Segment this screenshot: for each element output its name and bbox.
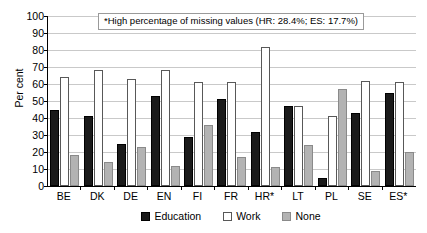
bar-none [204, 125, 213, 186]
bar-work [60, 77, 69, 186]
bar-work [395, 82, 404, 186]
x-tick-label: ES* [382, 190, 415, 202]
bar-none [405, 152, 414, 186]
bar-education [318, 178, 327, 187]
bar-work [227, 82, 236, 186]
bar-work [194, 82, 203, 186]
bar-none [271, 167, 280, 186]
bar-group [249, 16, 282, 186]
bar-work [261, 47, 270, 186]
y-tick-label: 60 [4, 79, 44, 90]
chart-annotation: *High percentage of missing values (HR: … [98, 13, 364, 30]
bar-group [215, 16, 248, 186]
bar-group [148, 16, 181, 186]
x-tick-label: FR [214, 190, 247, 202]
x-tick-mark [80, 186, 81, 190]
legend-item-work: Work [223, 210, 260, 222]
x-tick-label: SE [348, 190, 381, 202]
y-tick-label: 20 [4, 147, 44, 158]
x-tick-label: FI [181, 190, 214, 202]
bar-education [251, 132, 260, 186]
x-tick-mark [181, 186, 182, 190]
bar-group [316, 16, 349, 186]
x-tick-mark [315, 186, 316, 190]
y-tick-label: 90 [4, 28, 44, 39]
x-tick-label: DK [80, 190, 113, 202]
bar-work [294, 106, 303, 186]
y-tick-label: 40 [4, 113, 44, 124]
bar-none [104, 162, 113, 186]
bar-work [94, 70, 103, 186]
x-tick-label: LT [281, 190, 314, 202]
bar-chart: Per cent 0102030405060708090100 *High pe… [0, 0, 427, 233]
legend-label: Education [154, 210, 201, 222]
x-tick-mark [147, 186, 148, 190]
legend-item-none: None [282, 210, 320, 222]
x-tick-mark [248, 186, 249, 190]
bar-education [117, 144, 126, 187]
bar-education [151, 96, 160, 186]
bar-groups [48, 16, 416, 186]
bar-none [338, 89, 347, 186]
y-tick-label: 0 [4, 181, 44, 192]
bar-education [50, 110, 59, 187]
bar-work [127, 79, 136, 186]
bar-education [84, 116, 93, 186]
bar-group [282, 16, 315, 186]
x-tick-label: EN [147, 190, 180, 202]
bar-group [349, 16, 382, 186]
bar-education [351, 113, 360, 186]
y-tick-label: 100 [4, 11, 44, 22]
x-tick-mark [114, 186, 115, 190]
bar-none [137, 147, 146, 186]
legend-swatch-none [282, 212, 291, 221]
x-tick-mark [348, 186, 349, 190]
chart-legend: EducationWorkNone [47, 210, 415, 222]
y-tick-label: 10 [4, 164, 44, 175]
y-tick-label: 50 [4, 96, 44, 107]
x-tick-label: HR* [248, 190, 281, 202]
legend-label: Work [236, 210, 260, 222]
x-axis-labels: BEDKDEENFIFRHR*LTPLSEES* [47, 190, 415, 202]
bar-group [182, 16, 215, 186]
x-tick-label: BE [47, 190, 80, 202]
x-tick-mark [214, 186, 215, 190]
x-tick-label: PL [315, 190, 348, 202]
bar-none [70, 155, 79, 186]
bar-none [237, 157, 246, 186]
bar-work [361, 81, 370, 186]
bar-group [48, 16, 81, 186]
bar-none [171, 166, 180, 186]
x-tick-label: DE [114, 190, 147, 202]
bar-education [385, 93, 394, 187]
y-tick-label: 70 [4, 62, 44, 73]
bar-group [81, 16, 114, 186]
x-tick-mark [382, 186, 383, 190]
bar-education [284, 106, 293, 186]
bar-group [383, 16, 416, 186]
y-tick-label: 30 [4, 130, 44, 141]
legend-swatch-work [223, 212, 232, 221]
y-tick-label: 80 [4, 45, 44, 56]
legend-label: None [295, 210, 320, 222]
bar-work [328, 116, 337, 186]
plot-area: 0102030405060708090100 [47, 16, 416, 187]
bar-work [161, 70, 170, 186]
x-tick-mark [281, 186, 282, 190]
bar-education [184, 137, 193, 186]
bar-group [115, 16, 148, 186]
legend-swatch-education [141, 212, 150, 221]
bar-education [217, 99, 226, 186]
legend-item-education: Education [141, 210, 201, 222]
bar-none [304, 145, 313, 186]
y-tick-mark [44, 186, 48, 187]
bar-none [371, 171, 380, 186]
